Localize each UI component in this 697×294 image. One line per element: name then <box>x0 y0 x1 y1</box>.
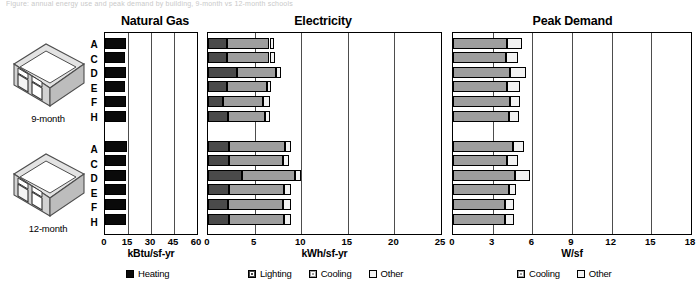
bar-peak-9month-e <box>453 81 691 92</box>
x-tick-elec-10: 10 <box>295 236 306 247</box>
bar-elec-9month-a <box>208 38 441 49</box>
bar-gas-12month-e <box>105 184 197 195</box>
bar-segment-lighting <box>208 111 228 122</box>
bar-segment-cooling <box>237 67 276 78</box>
x-axis-title-electricity: kWh/sf-yr <box>207 247 442 259</box>
bar-gas-12month-c <box>105 155 197 166</box>
x-tick-gas-30: 30 <box>145 236 156 247</box>
bar-gas-12month-a <box>105 141 197 152</box>
x-tick-elec-15: 15 <box>342 236 353 247</box>
bar-segment-heating <box>105 38 126 49</box>
bar-segment-lighting <box>208 170 242 181</box>
bar-segment-heating <box>105 170 126 181</box>
x-tick-gas-45: 45 <box>168 236 179 247</box>
bar-segment-cooling <box>229 214 284 225</box>
bar-segment-other <box>265 111 271 122</box>
row-label-f: F <box>87 201 101 216</box>
bar-segment-cooling <box>453 52 506 63</box>
legend-peak-demand: CoolingOther <box>517 268 629 279</box>
bar-peak-9month-d <box>453 67 691 78</box>
bar-elec-12month-c <box>208 155 441 166</box>
bar-segment-heating <box>105 67 126 78</box>
building-label-12-month: 12-month <box>6 223 90 234</box>
bar-segment-cooling <box>453 67 510 78</box>
bar-gas-9month-h <box>105 111 197 122</box>
bar-peak-9month-h <box>453 111 691 122</box>
bar-segment-lighting <box>208 96 223 107</box>
x-tick-elec-20: 20 <box>388 236 399 247</box>
bar-segment-other <box>510 96 521 107</box>
bar-segment-other <box>267 81 272 92</box>
legend-item-lighting: Lighting <box>248 268 292 279</box>
bar-segment-cooling <box>223 96 263 107</box>
row-labels-12-month: ACDEFH <box>87 143 101 231</box>
legend-natural-gas: Heating <box>126 268 186 279</box>
bar-peak-12month-c <box>453 155 691 166</box>
bar-peak-12month-f <box>453 199 691 210</box>
bar-segment-other <box>507 81 520 92</box>
x-tick-gas-15: 15 <box>122 236 133 247</box>
legend-label-other: Other <box>589 268 612 279</box>
bar-segment-other <box>505 199 514 210</box>
bar-segment-cooling <box>242 170 294 181</box>
x-tick-gas-0: 0 <box>101 236 106 247</box>
bar-peak-12month-e <box>453 184 691 195</box>
row-label-a: A <box>87 38 101 53</box>
legend-item-heating: Heating <box>126 268 169 279</box>
bar-gas-9month-f <box>105 96 197 107</box>
legend-label-cooling: Cooling <box>529 268 560 279</box>
bar-segment-lighting <box>208 199 228 210</box>
legend-swatch-lighting-icon <box>248 270 256 278</box>
legend-item-cooling: Cooling <box>309 268 352 279</box>
bar-segment-other <box>513 141 525 152</box>
bar-segment-other <box>284 184 291 195</box>
bar-segment-heating <box>105 111 126 122</box>
bar-segment-heating <box>105 184 126 195</box>
bar-gas-12month-d <box>105 170 197 181</box>
bar-segment-heating <box>105 96 126 107</box>
bar-segment-cooling <box>228 111 265 122</box>
panel-title-electricity: Electricity <box>258 14 388 28</box>
bar-elec-9month-c <box>208 52 441 63</box>
x-tick-peak-0: 0 <box>449 236 454 247</box>
bar-segment-lighting <box>208 38 227 49</box>
bar-gas-9month-a <box>105 38 197 49</box>
x-axis-electricity: kWh/sf-yr 0510152025 <box>207 236 442 260</box>
x-axis-natural-gas: kBtu/sf-yr 015304560 <box>104 236 198 260</box>
panel-peak-demand <box>452 32 692 235</box>
bar-segment-lighting <box>208 155 229 166</box>
bar-segment-heating <box>105 199 126 210</box>
bar-peak-9month-c <box>453 52 691 63</box>
bar-segment-other <box>507 38 522 49</box>
bar-elec-12month-a <box>208 141 441 152</box>
bar-peak-9month-a <box>453 38 691 49</box>
bar-segment-other <box>507 155 518 166</box>
bar-segment-lighting <box>208 214 229 225</box>
row-label-e: E <box>87 82 101 97</box>
row-label-e: E <box>87 187 101 202</box>
row-label-c: C <box>87 53 101 68</box>
legend-label-lighting: Lighting <box>260 268 292 279</box>
bar-segment-other <box>295 170 302 181</box>
panel-electricity <box>207 32 442 235</box>
bar-gas-9month-d <box>105 67 197 78</box>
legend-swatch-heating-icon <box>126 270 134 278</box>
row-label-h: H <box>87 111 101 126</box>
legend-item-other: Other <box>577 268 612 279</box>
x-axis-peak-demand: W/sf 0369121518 <box>452 236 692 260</box>
x-tick-peak-6: 6 <box>529 236 534 247</box>
legend-swatch-cooling-icon <box>309 270 317 278</box>
bar-segment-cooling <box>229 184 284 195</box>
bar-elec-12month-h <box>208 214 441 225</box>
row-labels-9-month: ACDEFH <box>87 38 101 126</box>
bar-segment-cooling <box>229 141 285 152</box>
row-label-d: D <box>87 172 101 187</box>
legend-electricity: LightingCoolingOther <box>248 268 420 279</box>
bar-segment-heating <box>105 214 126 225</box>
bar-segment-cooling <box>453 199 505 210</box>
bar-segment-other <box>510 67 526 78</box>
bar-gas-12month-h <box>105 214 197 225</box>
bar-peak-12month-h <box>453 214 691 225</box>
bar-segment-lighting <box>208 52 227 63</box>
bar-segment-other <box>505 214 514 225</box>
